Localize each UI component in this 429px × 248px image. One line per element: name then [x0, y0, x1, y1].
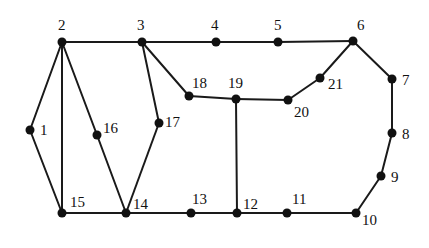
edge-21-6 — [320, 41, 353, 78]
node-19 — [232, 95, 241, 104]
node-16 — [93, 131, 102, 140]
edge-layer — [30, 41, 392, 213]
node-label-2: 2 — [58, 17, 66, 33]
edge-6-7 — [353, 41, 392, 79]
node-label-15: 15 — [70, 194, 85, 210]
node-12 — [233, 209, 242, 218]
node-11 — [283, 209, 292, 218]
node-1 — [26, 126, 35, 135]
edge-20-21 — [288, 78, 320, 100]
node-label-12: 12 — [243, 196, 258, 212]
edge-19-20 — [236, 99, 288, 100]
node-label-1: 1 — [40, 122, 48, 138]
node-6 — [349, 37, 358, 46]
node-label-18: 18 — [192, 75, 207, 91]
node-7 — [388, 75, 397, 84]
node-2 — [58, 38, 67, 47]
node-label-11: 11 — [292, 191, 306, 207]
node-label-9: 9 — [391, 169, 399, 185]
node-15 — [58, 209, 67, 218]
node-label-6: 6 — [357, 17, 365, 33]
edge-1-15 — [30, 130, 62, 213]
edge-2-16 — [62, 42, 97, 135]
edge-3-18 — [142, 42, 189, 96]
node-20 — [284, 96, 293, 105]
node-9 — [377, 172, 386, 181]
node-13 — [187, 209, 196, 218]
label-layer: 123456789101112131415161718192021 — [40, 17, 410, 228]
graph-diagram: 123456789101112131415161718192021 — [0, 0, 429, 248]
node-label-14: 14 — [133, 196, 149, 212]
node-4 — [212, 38, 221, 47]
node-label-13: 13 — [192, 191, 207, 207]
node-14 — [122, 209, 131, 218]
node-layer — [26, 37, 397, 218]
edge-18-19 — [189, 96, 236, 99]
node-label-19: 19 — [228, 75, 243, 91]
node-17 — [155, 119, 164, 128]
node-label-5: 5 — [274, 17, 282, 33]
node-10 — [352, 209, 361, 218]
edge-16-14 — [97, 135, 126, 213]
node-5 — [274, 38, 283, 47]
node-18 — [185, 92, 194, 101]
node-3 — [138, 38, 147, 47]
edge-5-6 — [278, 41, 353, 42]
node-label-17: 17 — [165, 114, 181, 130]
node-label-21: 21 — [328, 76, 343, 92]
node-label-8: 8 — [402, 126, 410, 142]
node-label-10: 10 — [362, 212, 377, 228]
edge-3-17 — [142, 42, 159, 123]
node-21 — [316, 74, 325, 83]
node-8 — [388, 129, 397, 138]
node-label-16: 16 — [103, 120, 119, 136]
node-label-4: 4 — [211, 17, 219, 33]
node-label-3: 3 — [137, 17, 145, 33]
edge-19-12 — [236, 99, 237, 213]
edge-2-1 — [30, 42, 62, 130]
node-label-20: 20 — [294, 104, 309, 120]
node-label-7: 7 — [402, 72, 410, 88]
edge-9-10 — [356, 176, 381, 213]
